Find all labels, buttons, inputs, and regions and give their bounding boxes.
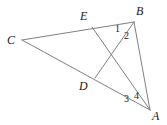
angle-label-2: 2 bbox=[124, 31, 129, 41]
angle-label-3: 3 bbox=[124, 94, 129, 104]
segment-EA bbox=[92, 27, 150, 110]
vertex-label-D: D bbox=[79, 80, 88, 92]
vertex-label-C: C bbox=[7, 34, 15, 46]
segment-CA bbox=[22, 40, 150, 110]
vertex-label-A: A bbox=[152, 110, 159, 122]
angle-label-4: 4 bbox=[134, 91, 139, 101]
angle-label-1: 1 bbox=[115, 24, 120, 34]
vertex-label-B: B bbox=[136, 5, 143, 17]
geometry-figure: C B A E D 1 2 3 4 bbox=[0, 0, 167, 125]
vertex-label-E: E bbox=[80, 10, 87, 22]
